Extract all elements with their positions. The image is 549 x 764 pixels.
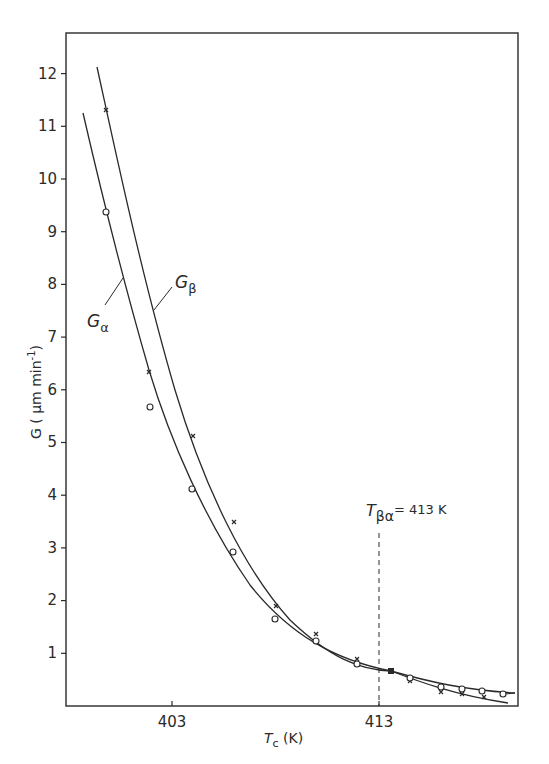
- g-beta-curve: [97, 67, 508, 703]
- y-tick-label: 1: [47, 644, 57, 662]
- g-alpha-label: Gα: [87, 311, 109, 335]
- y-tick-label: 3: [47, 539, 57, 557]
- x-tick-label: 413: [365, 713, 394, 731]
- y-tick-label: 11: [38, 117, 57, 135]
- y-tick-label: 4: [47, 486, 57, 504]
- transition-annotation: Tβα= 413 K: [366, 501, 447, 524]
- x-tick-label: 403: [158, 713, 187, 731]
- y-tick-label: 9: [47, 223, 57, 241]
- y-tick-label: 5: [47, 433, 57, 451]
- y-tick-label: 6: [47, 381, 57, 399]
- g-alpha-curve: [83, 113, 515, 693]
- g-beta-leader-line: [154, 287, 172, 310]
- y-tick-label: 8: [47, 275, 57, 293]
- crossover-point-marker: [388, 668, 394, 674]
- y-axis-label: G ( μm min-1): [26, 345, 44, 439]
- y-tick-label: 12: [38, 65, 57, 83]
- y-tick-label: 7: [47, 328, 57, 346]
- y-tick-label: 2: [47, 591, 57, 609]
- plot-frame: [66, 33, 518, 706]
- g-alpha-leader-line: [105, 278, 123, 305]
- g-beta-label: Gβ: [175, 272, 196, 296]
- x-axis-ticks: [172, 701, 379, 706]
- growth-rate-chart: 1 2 3 4 5 6 7 8 9 10 11 12 403 413 Tc (K…: [0, 0, 549, 764]
- g-alpha-markers: [103, 209, 506, 697]
- y-axis-ticks: [61, 74, 66, 654]
- x-axis-label: Tc (K): [264, 730, 303, 750]
- g-beta-markers: [104, 108, 486, 699]
- y-tick-label: 10: [38, 170, 57, 188]
